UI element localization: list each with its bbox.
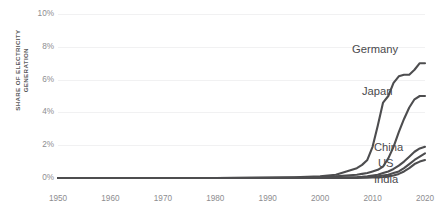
x-tick-label-2020: 2020 xyxy=(405,194,439,203)
series-line-germany xyxy=(58,63,425,178)
series-line-japan xyxy=(58,96,425,178)
series-lines xyxy=(58,63,425,178)
x-tick-label-1980: 1980 xyxy=(195,194,235,203)
series-label-india: India xyxy=(374,173,398,185)
x-tick-label-1970: 1970 xyxy=(143,194,183,203)
series-line-us xyxy=(58,153,425,178)
x-tick-label-2000: 2000 xyxy=(300,194,340,203)
series-label-china: China xyxy=(374,141,403,153)
x-tick-label-1950: 1950 xyxy=(38,194,78,203)
x-tick-label-2010: 2010 xyxy=(353,194,393,203)
x-tick-label-1990: 1990 xyxy=(248,194,288,203)
series-label-germany: Germany xyxy=(352,43,398,55)
series-label-us: US xyxy=(378,157,394,169)
series-label-japan: Japan xyxy=(362,85,392,97)
x-tick-label-1960: 1960 xyxy=(90,194,130,203)
